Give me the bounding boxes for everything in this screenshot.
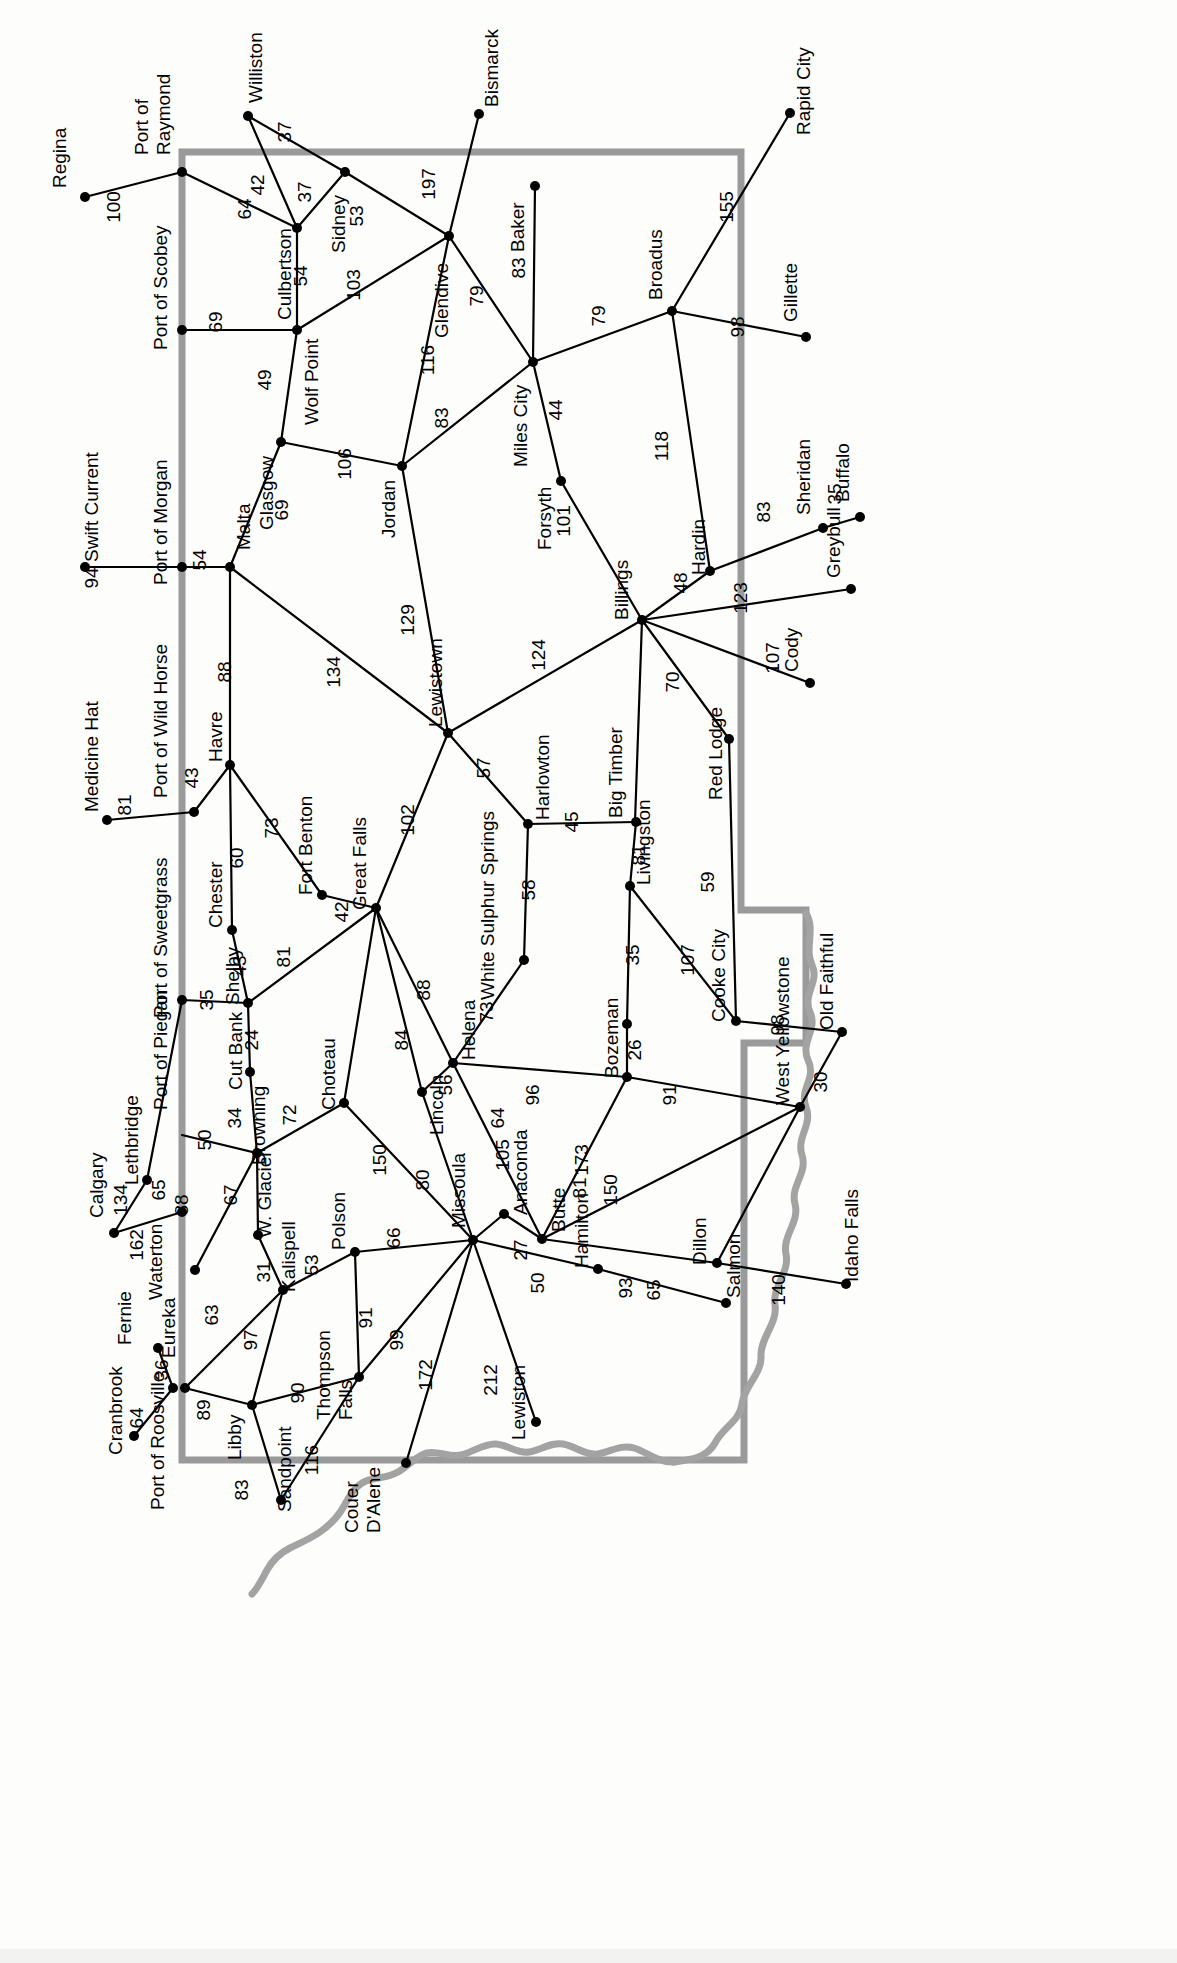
node-couer-dalene xyxy=(401,1458,411,1468)
dist-123: 123 xyxy=(730,582,751,614)
node-miles-city xyxy=(528,357,538,367)
city-label-port-of-sweetgrass: Port of Sweetgrass xyxy=(150,857,171,1018)
node-eureka xyxy=(180,1383,190,1393)
edge-shelby-greatfalls xyxy=(248,908,376,1003)
dist-83a: 83 xyxy=(431,407,452,428)
dist-88a: 88 xyxy=(214,661,235,682)
city-label-havre: Havre xyxy=(205,711,226,762)
city-label-polson: Polson xyxy=(328,1192,349,1250)
node-hamilton xyxy=(593,1264,603,1274)
dist-83b: 83 xyxy=(508,257,529,278)
dist-173: 173 xyxy=(571,1144,592,1176)
edge-harlowton-bigtimber xyxy=(528,822,636,824)
city-label-calgary: Calgary xyxy=(86,1152,107,1218)
edge-wolfpoint-glasgow xyxy=(281,330,297,442)
dist-102: 102 xyxy=(397,804,418,836)
dist-65: 65 xyxy=(148,1179,169,1200)
city-label-gillette: Gillette xyxy=(780,263,801,322)
node-jordan xyxy=(397,461,407,471)
dist-94: 94 xyxy=(81,567,102,589)
dist-172: 172 xyxy=(415,1359,436,1391)
edge-polson-missoula xyxy=(355,1240,473,1252)
node-cody xyxy=(805,678,815,688)
dist-134b: 134 xyxy=(110,1184,131,1216)
node-broadus xyxy=(667,306,677,316)
city-label-white-sulphur-springs: White Sulphur Springs xyxy=(477,811,498,1000)
city-label-great-falls: Great Falls xyxy=(349,817,370,910)
dist-98b: 98 xyxy=(767,1014,788,1035)
node-helena xyxy=(448,1058,458,1068)
dist-116: 116 xyxy=(417,345,438,375)
node-wolf-point xyxy=(292,325,302,335)
dist-83c: 83 xyxy=(753,501,774,522)
node-forsyth xyxy=(556,476,566,486)
city-label-cranbrook: Cranbrook xyxy=(105,1366,126,1455)
dist-24: 24 xyxy=(241,1029,262,1051)
dist-99: 99 xyxy=(386,1329,407,1350)
dist-107a: 107 xyxy=(762,642,783,674)
city-label-fort-benton: Fort Benton xyxy=(295,796,316,895)
node-malta xyxy=(225,562,235,572)
node-bismarck xyxy=(474,109,484,119)
city-label-glendive: Glendive xyxy=(431,263,452,338)
dist-37b: 37 xyxy=(294,181,315,202)
dist-73b: 73 xyxy=(476,1001,497,1022)
dist-72: 72 xyxy=(279,1104,300,1125)
city-label-port-of-raymond: Port of xyxy=(131,98,152,155)
dist-36: 36 xyxy=(151,1359,172,1380)
dist-49: 49 xyxy=(254,369,275,390)
node-port-of-roosville xyxy=(168,1383,178,1393)
dist-64c: 64 xyxy=(126,1407,147,1429)
edge-regina-port-raymond xyxy=(85,172,182,197)
edge-waterton-browning xyxy=(195,1153,257,1270)
dist-63: 63 xyxy=(201,1304,222,1325)
dist-212: 212 xyxy=(480,1364,501,1396)
dist-150b: 150 xyxy=(369,1144,390,1176)
dist-93: 93 xyxy=(615,1277,636,1298)
node-port-of-piegan xyxy=(177,995,187,1005)
dist-69a: 69 xyxy=(205,311,226,332)
city-label-red-lodge: Red Lodge xyxy=(705,707,726,800)
dist-91: 91 xyxy=(659,1084,680,1105)
city-label-rapid-city: Rapid City xyxy=(793,47,814,135)
page-bottom-strip xyxy=(0,1949,1177,1963)
node-salmon xyxy=(721,1298,731,1308)
city-label-port-of-wild-horse: Port of Wild Horse xyxy=(150,644,171,798)
dist-118: 118 xyxy=(651,431,672,461)
dist-35c: 35 xyxy=(622,944,643,965)
dist-101: 101 xyxy=(553,505,574,537)
node-medicine-hat xyxy=(102,815,112,825)
city-label-old-faithful: Old Faithful xyxy=(816,933,837,1030)
dist-97: 97 xyxy=(240,1329,261,1350)
edge-redlodge-cookecity xyxy=(729,739,736,1021)
dist-42b: 42 xyxy=(331,901,352,922)
dist-56: 56 xyxy=(435,1074,456,1095)
node-port-of-wild-horse xyxy=(189,807,199,817)
city-label-butte: Butte xyxy=(548,1188,569,1232)
montana-distance-map: Regina Port of Raymond Williston Culbert… xyxy=(0,0,1177,1963)
city-label-regina: Regina xyxy=(49,127,70,188)
node-baker xyxy=(530,181,540,191)
dist-34: 34 xyxy=(224,1107,245,1129)
city-label-dalene: D'Alene xyxy=(363,1467,384,1533)
city-label-swift-current: Swift Current xyxy=(81,451,102,562)
dist-80: 80 xyxy=(412,1169,433,1190)
dist-162: 162 xyxy=(126,1229,147,1261)
dist-88b: 88 xyxy=(171,1194,192,1215)
node-glendive xyxy=(444,231,454,241)
node-dillon xyxy=(712,1258,722,1268)
node-greybull xyxy=(846,584,856,594)
city-label-thompson: Thompson xyxy=(313,1330,334,1420)
city-label-greybull: Greybull xyxy=(823,507,844,578)
dist-57: 57 xyxy=(473,757,494,778)
city-label-williston: Williston xyxy=(245,32,266,103)
city-label-anaconda: Anaconda xyxy=(510,1129,531,1215)
dist-134a: 134 xyxy=(323,656,344,688)
dist-37a: 37 xyxy=(274,121,295,142)
city-label-waterton: Waterton xyxy=(145,1224,166,1300)
edge-kalispell-eureka xyxy=(185,1290,283,1388)
city-label-harlowton: Harlowton xyxy=(532,734,553,820)
dist-50: 50 xyxy=(194,1129,215,1150)
edge-milescity-baker xyxy=(533,186,535,362)
edge-wolfpoint-glendive xyxy=(297,236,449,330)
